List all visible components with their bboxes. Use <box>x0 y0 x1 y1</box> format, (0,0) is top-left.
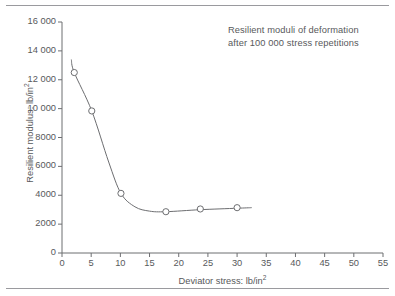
x-axis-label-text: Deviator stress: lb/in <box>179 276 263 286</box>
axes-group <box>58 22 383 257</box>
y-axis-tick-label: 12 000 <box>4 74 56 84</box>
data-point-marker <box>118 190 124 196</box>
data-point-marker <box>197 206 203 212</box>
y-axis-tick-label: 6000 <box>4 160 56 170</box>
data-point-marker <box>89 108 95 114</box>
figure-container: Resilient moduli of deformation after 10… <box>0 0 395 296</box>
data-curve-path <box>71 60 251 212</box>
y-axis-label-exponent: 2 <box>23 83 30 87</box>
x-axis-label: Deviator stress: lb/in2 <box>62 276 383 286</box>
y-axis-tick-label: 4000 <box>4 189 56 199</box>
data-point-marker <box>71 69 77 75</box>
annotation-line-2: after 100 000 stress repetitions <box>228 37 359 50</box>
y-axis-tick-label: 8000 <box>4 132 56 142</box>
chart-annotation: Resilient moduli of deformation after 10… <box>228 24 359 50</box>
y-axis-tick-label: 0 <box>4 247 56 257</box>
annotation-line-1: Resilient moduli of deformation <box>228 24 359 37</box>
data-point-marker <box>163 209 169 215</box>
x-axis-tick-label: 55 <box>363 258 395 268</box>
y-axis-tick-label: 10 000 <box>4 103 56 113</box>
y-axis-tick-label: 14 000 <box>4 45 56 55</box>
y-axis-tick-label: 2000 <box>4 218 56 228</box>
y-axis-tick-label: 16 000 <box>4 16 56 26</box>
x-axis-label-exponent: 2 <box>263 274 267 281</box>
data-markers <box>71 69 240 214</box>
data-point-marker <box>234 205 240 211</box>
data-curve <box>71 60 251 212</box>
